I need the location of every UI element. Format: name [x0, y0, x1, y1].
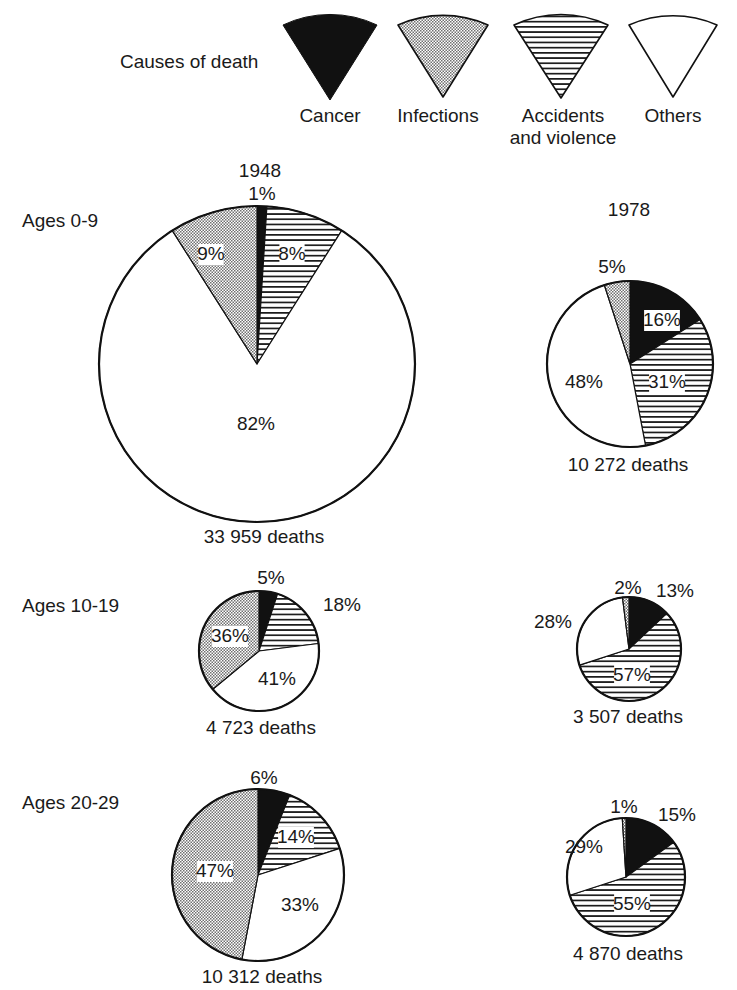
percent-label-cancer: 13% [656, 580, 694, 601]
legend-item-cancer: Cancer [283, 14, 377, 126]
percent-label-infections: 36% [211, 625, 249, 646]
causes-of-death-pie-chart: Causes of deathCancerInfectionsAccidents… [0, 0, 737, 990]
age-group-label: Ages 0-9 [22, 210, 98, 231]
legend-label-accidents: Accidents [522, 105, 604, 126]
infections-swatch-icon [398, 15, 488, 97]
legend-label-others: Others [644, 105, 701, 126]
percent-label-accidents: 55% [613, 893, 651, 914]
year-label-1948: 1948 [239, 160, 281, 181]
legend: Causes of deathCancerInfectionsAccidents… [120, 14, 717, 148]
total-deaths-label: 10 312 deaths [202, 966, 322, 987]
age-group-label: Ages 20-29 [22, 792, 119, 813]
legend-label-cancer: Cancer [299, 105, 361, 126]
others-swatch-icon [629, 16, 717, 97]
total-deaths-label: 10 272 deaths [568, 454, 688, 475]
year-label-1978: 1978 [608, 199, 650, 220]
percent-label-infections: 47% [196, 860, 234, 881]
percent-label-others: 28% [534, 611, 572, 632]
percent-label-cancer: 6% [250, 767, 278, 788]
percent-label-others: 29% [565, 836, 603, 857]
legend-item-infections: Infections [397, 15, 488, 126]
pie-1978-ages-0-9: 16%31%48%5%10 272 deaths [547, 256, 713, 475]
percent-label-infections: 2% [614, 577, 642, 598]
total-deaths-label: 33 959 deaths [204, 526, 324, 547]
pie-1948-ages-20-29: 6%14%33%47%10 312 deaths [172, 767, 344, 987]
percent-label-accidents: 31% [648, 371, 686, 392]
percent-label-infections: 5% [598, 256, 626, 277]
percent-label-cancer: 1% [248, 183, 276, 204]
percent-label-accidents: 18% [323, 594, 361, 615]
percent-label-accidents: 14% [277, 826, 315, 847]
age-group-label: Ages 10-19 [22, 595, 119, 616]
percent-label-cancer: 16% [643, 309, 681, 330]
pies: 1%8%82%9%33 959 deaths16%31%48%5%10 272 … [99, 183, 713, 987]
total-deaths-label: 4 870 deaths [573, 943, 683, 964]
legend-label-infections: Infections [397, 105, 478, 126]
cancer-swatch-icon [283, 14, 377, 100]
percent-label-accidents: 57% [613, 664, 651, 685]
percent-label-cancer: 5% [257, 567, 285, 588]
percent-label-others: 48% [565, 371, 603, 392]
accidents-swatch-icon [514, 14, 608, 98]
total-deaths-label: 3 507 deaths [573, 706, 683, 727]
legend-label-accidents: and violence [510, 127, 617, 148]
legend-title: Causes of death [120, 51, 258, 72]
percent-label-others: 33% [281, 894, 319, 915]
total-deaths-label: 4 723 deaths [206, 717, 316, 738]
legend-item-others: Others [629, 16, 717, 126]
pie-1978-ages-20-29: 15%55%29%1%4 870 deaths [565, 796, 696, 964]
percent-label-others: 41% [258, 668, 296, 689]
percent-label-infections: 9% [197, 243, 225, 264]
legend-item-accidents: Accidentsand violence [510, 14, 617, 148]
pie-1948-ages-0-9: 1%8%82%9%33 959 deaths [99, 183, 415, 547]
percent-label-infections: 1% [610, 796, 638, 817]
percent-label-cancer: 15% [658, 804, 696, 825]
pie-1948-ages-10-19: 5%18%41%36%4 723 deaths [199, 567, 361, 738]
percent-label-accidents: 8% [278, 243, 306, 264]
pie-1978-ages-10-19: 13%57%28%2%3 507 deaths [534, 577, 694, 727]
percent-label-others: 82% [237, 413, 275, 434]
